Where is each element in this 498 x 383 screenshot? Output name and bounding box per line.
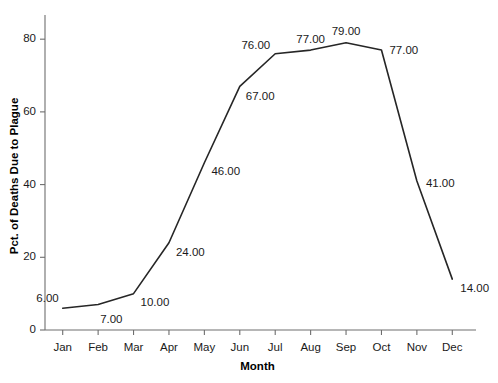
data-point-label: 46.00 <box>211 166 240 178</box>
data-point-label: 76.00 <box>0 40 270 52</box>
x-axis-ticks <box>63 330 453 335</box>
x-tick-label: Jun <box>220 342 260 354</box>
x-tick-label: Jan <box>43 342 83 354</box>
x-tick-label: Feb <box>78 342 118 354</box>
data-point-label: 24.00 <box>176 247 205 259</box>
data-point-label: 77.00 <box>389 45 418 57</box>
x-tick-label: May <box>184 342 224 354</box>
data-point-label: 67.00 <box>246 91 275 103</box>
x-tick-label: Mar <box>114 342 154 354</box>
data-point-label: 14.00 <box>460 283 489 295</box>
line-chart-plot <box>0 0 498 383</box>
x-tick-label: Jul <box>255 342 295 354</box>
x-tick-label: Aug <box>291 342 331 354</box>
data-point-label: 79.00 <box>316 26 376 38</box>
x-tick-label: Oct <box>361 342 401 354</box>
y-axis-title: Pct. of Deaths Due to Plague <box>8 97 20 254</box>
y-tick-label: 0 <box>6 324 36 336</box>
x-tick-label: Sep <box>326 342 366 354</box>
data-point-label: 10.00 <box>141 297 170 309</box>
data-point-label: 7.00 <box>100 314 122 326</box>
axis-lines <box>45 15 476 330</box>
x-axis-title: Month <box>45 360 470 372</box>
y-axis-ticks <box>40 39 45 330</box>
x-tick-label: Apr <box>149 342 189 354</box>
data-point-label: 41.00 <box>426 178 455 190</box>
data-point-label: 6.00 <box>0 293 59 305</box>
x-tick-label: Nov <box>397 342 437 354</box>
data-series-line <box>63 43 453 308</box>
chart-canvas: 020406080 JanFebMarAprMayJunJulAugSepOct… <box>0 0 498 383</box>
x-tick-label: Dec <box>432 342 472 354</box>
